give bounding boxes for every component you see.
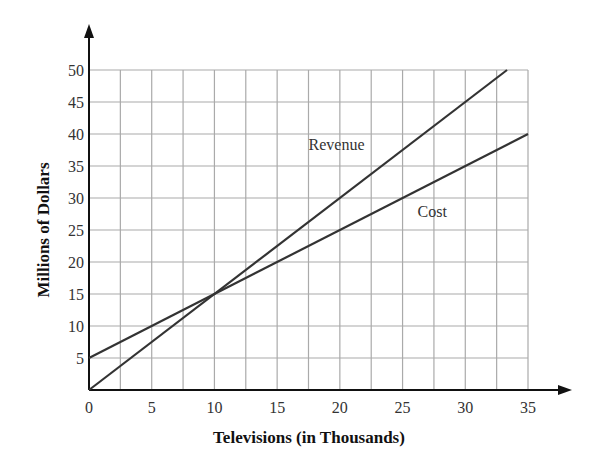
x-tick-label: 15 — [269, 399, 285, 416]
y-tick-label: 25 — [68, 222, 84, 239]
x-tick-label: 25 — [395, 399, 411, 416]
x-tick-label: 0 — [85, 399, 93, 416]
y-tick-label: 30 — [68, 190, 84, 207]
x-axis-arrow-icon — [558, 385, 572, 395]
x-tick-label: 5 — [148, 399, 156, 416]
y-tick-label: 35 — [68, 158, 84, 175]
y-tick-label: 20 — [68, 254, 84, 271]
y-axis-arrow-icon — [84, 24, 94, 38]
annotation-cost: Cost — [418, 203, 448, 220]
chart: 051015202530355101520253035404550 Revenu… — [0, 0, 591, 476]
y-tick-label: 15 — [68, 286, 84, 303]
x-axis-label: Televisions (in Thousands) — [213, 428, 405, 447]
y-tick-label: 45 — [68, 94, 84, 111]
y-tick-label: 50 — [68, 62, 84, 79]
grid — [89, 70, 528, 390]
x-tick-label: 20 — [332, 399, 348, 416]
y-tick-label: 5 — [76, 350, 84, 367]
x-tick-label: 30 — [457, 399, 473, 416]
annotation-revenue: Revenue — [309, 136, 365, 153]
y-axis-label: Millions of Dollars — [34, 162, 53, 297]
y-tick-label: 40 — [68, 126, 84, 143]
x-tick-label: 10 — [206, 399, 222, 416]
axes — [84, 24, 572, 395]
annotations: RevenueCost — [309, 136, 448, 220]
x-tick-label: 35 — [520, 399, 536, 416]
y-tick-label: 10 — [68, 318, 84, 335]
